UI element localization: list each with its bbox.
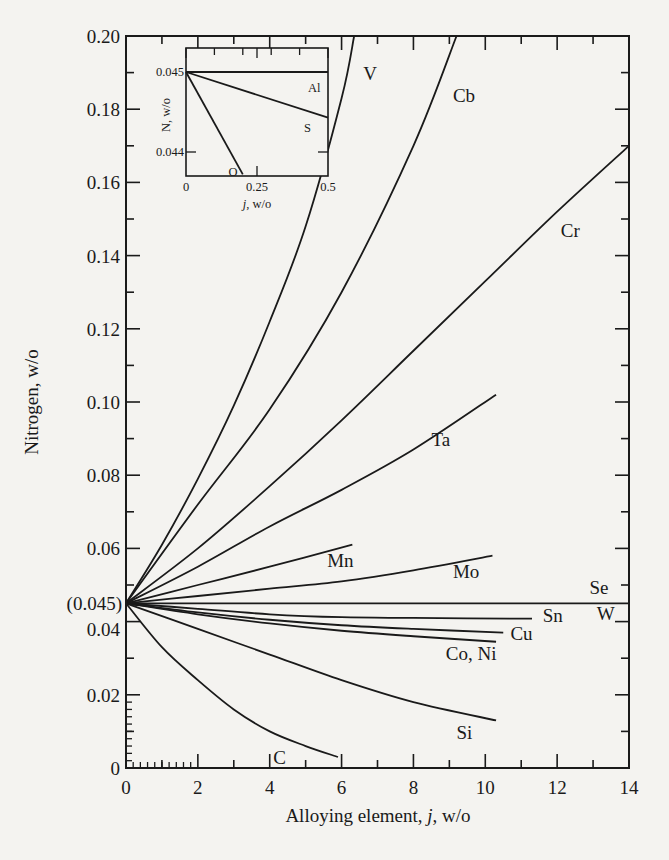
curve-label: Cb (453, 85, 475, 106)
y-axis-title: Nitrogen, w/o (21, 349, 42, 455)
x-tick-label: 0 (121, 777, 131, 798)
inset-x-tick-label: 0 (183, 180, 189, 194)
x-axis-title: Alloying element, j, w/o (285, 805, 470, 826)
curve-label: Sn (543, 605, 564, 626)
curve-label: C (273, 747, 286, 768)
curve-label: Se (589, 577, 608, 598)
nitrogen-solubility-chart: VCbCrTaMnMoSeWSnCuCo, NiSiC 00.020.040.0… (0, 0, 669, 860)
y-tick-label: 0 (111, 758, 121, 779)
inset-y-title: N, w/o (159, 98, 173, 132)
x-tick-label: 4 (265, 777, 275, 798)
curve-label: Cr (561, 220, 581, 241)
y-tick-label: 0.08 (87, 465, 120, 486)
curve-si (126, 603, 496, 720)
x-tick-label: 8 (409, 777, 419, 798)
inset-curve-label: O (229, 165, 238, 179)
inset-x-title: j, w/o (241, 197, 271, 211)
inset-y-tick-label: 0.045 (156, 65, 184, 79)
y-tick-label: 0.10 (87, 392, 120, 413)
curve-label: V (363, 63, 377, 84)
curve-label: W (597, 603, 615, 624)
curve-mn (126, 545, 352, 604)
inset-curve-label: S (304, 121, 311, 135)
curve-cr (126, 146, 629, 604)
curve-c (126, 603, 338, 757)
inset-x-tick-label: 0.5 (320, 180, 336, 194)
y-tick-label: 0.02 (87, 685, 120, 706)
curve-label: Mo (453, 561, 479, 582)
y-tick-label: 0.14 (87, 246, 121, 267)
y-tick-label: 0.06 (87, 538, 120, 559)
y-tick-label: 0.04 (87, 619, 121, 640)
x-tick-label: 10 (476, 777, 495, 798)
x-tick-label: 6 (337, 777, 347, 798)
y-tick-label: 0.18 (87, 99, 120, 120)
annotation-0045: (0.045) (67, 593, 122, 615)
curve-label: Cu (510, 623, 533, 644)
y-tick-label: 0.20 (87, 26, 120, 47)
x-tick-label: 14 (620, 777, 640, 798)
curve-ta (126, 395, 496, 604)
inset-chart: AlSO 00.250.50.0450.044 j, w/o N, w/o (156, 48, 336, 211)
curve-label: Si (457, 722, 473, 743)
y-tick-label: 0.16 (87, 172, 120, 193)
inset-curve-label: Al (308, 81, 321, 95)
curve-label: Mn (327, 550, 354, 571)
curve-label: Co, Ni (446, 643, 497, 664)
y-tick-label: 0.12 (87, 319, 120, 340)
inset-x-tick-label: 0.25 (246, 180, 268, 194)
x-tick-label: 2 (193, 777, 203, 798)
inset-y-tick-label: 0.044 (156, 145, 185, 159)
curve-label: Ta (431, 429, 450, 450)
y-tick-labels: 00.020.040.060.080.100.120.140.160.180.2… (87, 26, 121, 779)
x-tick-label: 12 (548, 777, 567, 798)
x-tick-labels: 02468101214 (121, 777, 639, 798)
